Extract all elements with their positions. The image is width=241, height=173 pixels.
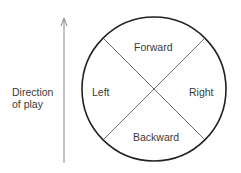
quadrant-forward: Forward	[134, 41, 173, 53]
direction-of-play-label: Direction of play	[12, 86, 53, 110]
quadrant-right: Right	[189, 86, 214, 98]
direction-label-line2: of play	[12, 98, 53, 110]
quadrant-backward: Backward	[133, 131, 179, 143]
direction-label-line1: Direction	[12, 86, 53, 98]
quadrant-left: Left	[92, 86, 110, 98]
direction-arrow	[61, 18, 67, 163]
